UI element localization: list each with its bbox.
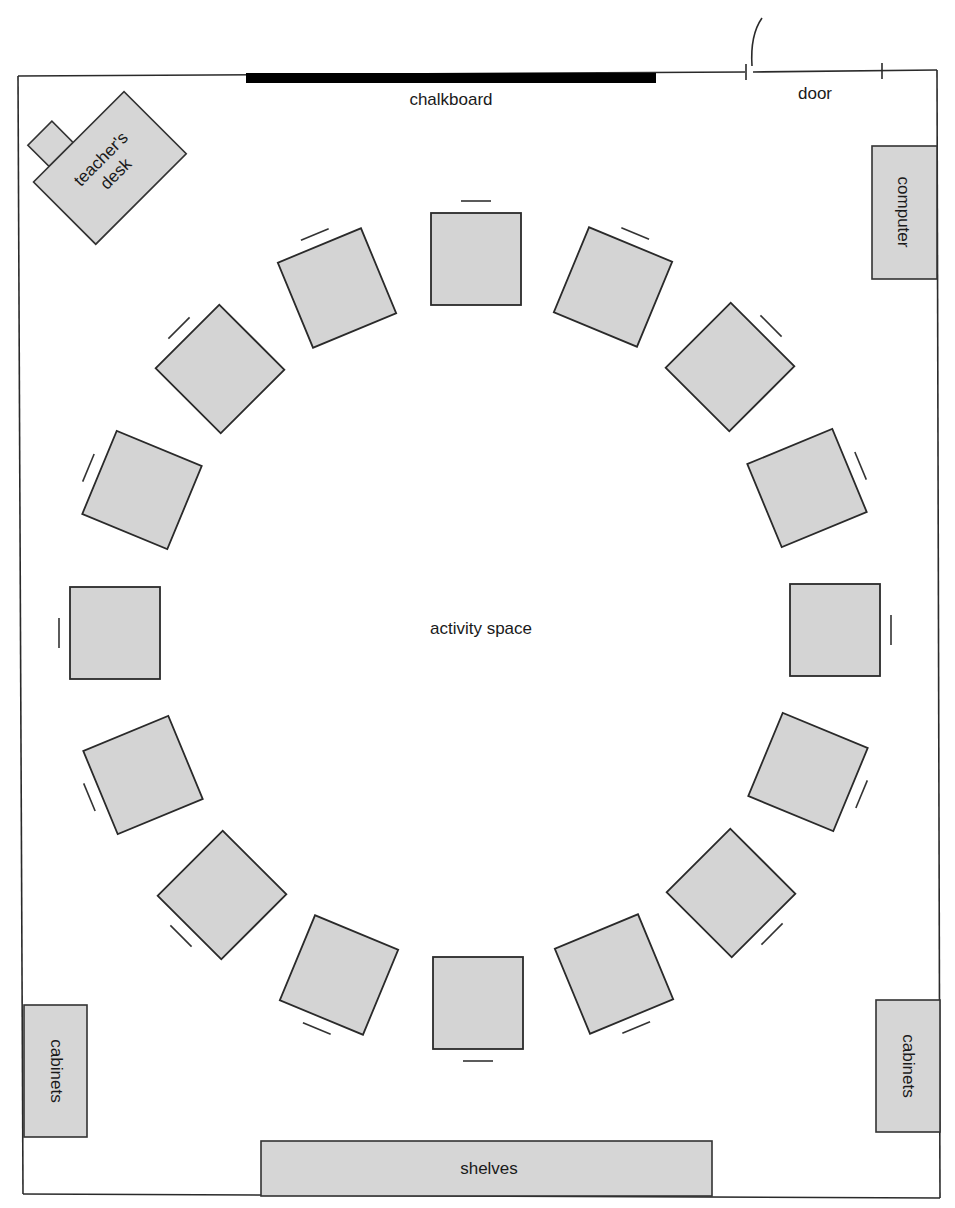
computer-label: computer xyxy=(894,177,913,248)
student-desk xyxy=(149,831,286,968)
student-desk xyxy=(748,713,879,836)
student-desk xyxy=(554,216,677,347)
student-desk xyxy=(431,201,521,305)
cabinets-right-label: cabinets xyxy=(899,1034,918,1097)
chalkboard-label: chalkboard xyxy=(409,90,492,109)
student-desk xyxy=(790,584,891,676)
student-desk xyxy=(71,426,202,549)
chalkboard xyxy=(246,73,656,83)
classroom-floor-plan: chalkboard door teacher's desk computer … xyxy=(0,0,955,1208)
student-desk xyxy=(433,957,523,1061)
student-desk xyxy=(667,829,804,966)
teachers-desk: teacher's desk xyxy=(12,70,186,244)
student-desk xyxy=(747,424,878,547)
door-label: door xyxy=(798,84,832,103)
activity-space-label: activity space xyxy=(430,619,532,638)
shelves-label: shelves xyxy=(460,1159,518,1178)
student-desk xyxy=(555,914,678,1045)
cabinets-left-label: cabinets xyxy=(47,1039,66,1102)
student-desk xyxy=(273,217,396,348)
student-desk xyxy=(275,915,398,1046)
student-desk xyxy=(72,716,203,839)
student-desk xyxy=(147,296,284,433)
student-desk xyxy=(666,294,803,431)
student-desk xyxy=(59,587,160,679)
